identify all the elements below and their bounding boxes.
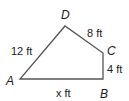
vertex-label-d: D: [61, 8, 70, 22]
vertex-label-c: C: [107, 44, 116, 58]
side-label-dc: 8 ft: [87, 27, 102, 39]
diagram-svg: A B C D 12 ft 8 ft 4 ft x ft: [0, 0, 129, 101]
vertex-label-a: A: [5, 74, 14, 88]
quadrilateral-diagram: A B C D 12 ft 8 ft 4 ft x ft: [0, 0, 129, 101]
side-label-ad: 12 ft: [11, 45, 32, 57]
vertex-label-b: B: [100, 87, 108, 101]
side-label-cb: 4 ft: [107, 63, 122, 75]
side-label-ab: x ft: [56, 87, 71, 99]
